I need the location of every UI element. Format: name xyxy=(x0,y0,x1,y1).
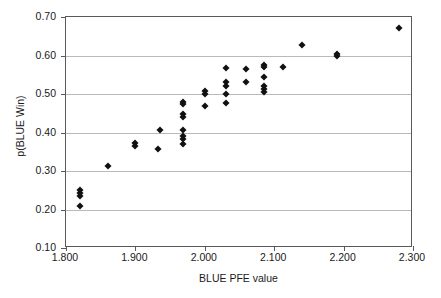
x-tick-label: 2.300 xyxy=(399,252,425,263)
gridline xyxy=(66,133,411,134)
y-tick-label: 0.20 xyxy=(36,204,56,215)
data-point-marker xyxy=(280,64,287,71)
data-point-marker xyxy=(179,140,186,147)
y-tick-mark xyxy=(61,248,66,249)
y-axis-title: p(BLUE Win) xyxy=(14,56,26,196)
y-axis-tick-labels: 0.100.200.300.400.500.600.70 xyxy=(0,16,56,247)
gridline xyxy=(66,210,411,211)
y-tick-label: 0.30 xyxy=(36,165,56,176)
x-tick-label: 2.200 xyxy=(329,252,355,263)
data-point-marker xyxy=(333,53,340,60)
x-axis-tick-labels: 1.8001.9002.0002.1002.2002.300 xyxy=(65,252,412,268)
data-point-marker xyxy=(179,101,186,108)
y-tick-mark xyxy=(61,17,66,18)
y-tick-label: 0.50 xyxy=(36,88,56,99)
data-point-marker xyxy=(222,100,229,107)
data-point-marker xyxy=(222,91,229,98)
y-tick-label: 0.60 xyxy=(36,50,56,61)
data-point-marker xyxy=(104,162,111,169)
x-tick-label: 1.900 xyxy=(121,252,147,263)
y-tick-mark xyxy=(61,210,66,211)
data-point-marker xyxy=(179,114,186,121)
y-tick-label: 0.40 xyxy=(36,127,56,138)
data-point-marker xyxy=(76,202,83,209)
data-point-marker xyxy=(298,41,305,48)
x-axis-title: BLUE PFE value xyxy=(65,272,412,284)
x-tick-label: 2.100 xyxy=(260,252,286,263)
data-point-marker xyxy=(222,65,229,72)
gridline xyxy=(66,171,411,172)
data-point-marker xyxy=(396,24,403,31)
data-point-marker xyxy=(201,102,208,109)
x-tick-label: 1.800 xyxy=(52,252,78,263)
data-point-marker xyxy=(261,74,268,81)
scatter-chart: 0.100.200.300.400.500.600.70 1.8001.9002… xyxy=(0,0,441,298)
y-tick-mark xyxy=(61,56,66,57)
data-point-marker xyxy=(201,91,208,98)
data-point-marker xyxy=(132,143,139,150)
y-tick-mark xyxy=(61,94,66,95)
data-point-marker xyxy=(155,146,162,153)
data-point-marker xyxy=(243,66,250,73)
data-point-marker xyxy=(243,79,250,86)
gridline xyxy=(66,56,411,57)
y-tick-mark xyxy=(61,171,66,172)
y-tick-label: 0.70 xyxy=(36,11,56,22)
y-tick-mark xyxy=(61,133,66,134)
x-tick-label: 2.000 xyxy=(191,252,217,263)
gridline xyxy=(66,94,411,95)
plot-area xyxy=(65,16,412,247)
